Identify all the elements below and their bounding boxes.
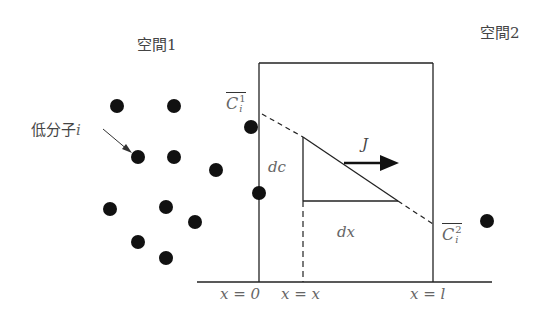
pointer-arrow-head-icon xyxy=(122,144,132,153)
molecule-dots xyxy=(103,99,494,265)
c2-sub: i xyxy=(455,235,461,245)
axis-label-xx: x = x xyxy=(281,285,320,303)
molecule-dot xyxy=(244,120,258,134)
molecule-dot xyxy=(188,215,202,229)
gradient-dashed-start xyxy=(262,114,303,137)
c1-base: C xyxy=(226,94,238,113)
axis-label-x0: x = 0 xyxy=(220,285,260,303)
molecule-dot xyxy=(480,214,494,228)
dx-label: dx xyxy=(337,223,355,241)
molecule-dot xyxy=(131,235,145,249)
c2-base: C xyxy=(442,225,454,244)
molecule-dot xyxy=(110,99,124,113)
molecule-dot xyxy=(131,150,145,164)
molecule-var: i xyxy=(76,121,81,139)
concentration-c2-label: C2i xyxy=(442,223,462,245)
molecule-dot xyxy=(159,251,173,265)
axis-label-xl: x = l xyxy=(410,285,445,303)
gradient-dashed-end xyxy=(398,201,433,224)
molecule-dot xyxy=(103,202,117,216)
molecule-label-text: 低分子 xyxy=(31,121,76,139)
flux-j-label: J xyxy=(362,135,368,153)
molecule-dot xyxy=(209,163,223,177)
c1-sub: i xyxy=(239,104,245,114)
molecule-dot xyxy=(159,200,173,214)
molecule-label: 低分子i xyxy=(31,118,81,139)
molecule-dot xyxy=(167,99,181,113)
concentration-c1-label: C1i xyxy=(226,92,246,114)
molecule-dot xyxy=(167,150,181,164)
dc-label: dc xyxy=(268,158,286,176)
space2-label: 空間2 xyxy=(480,21,520,42)
flux-arrow-head-icon xyxy=(380,155,399,171)
space1-label: 空間1 xyxy=(137,33,177,54)
molecule-dot xyxy=(252,186,266,200)
